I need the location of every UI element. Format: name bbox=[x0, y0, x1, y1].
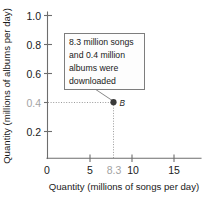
chart-figure: 1.0 0.8 0.6 0.4 0.2 0 5 8.3 10 15 Quanti… bbox=[0, 0, 210, 198]
callout-line-1: 8.3 million songs bbox=[69, 37, 134, 47]
callout-line-4: downloaded bbox=[69, 76, 116, 86]
callout-line-2: and 0.4 million bbox=[69, 50, 125, 60]
x-tick-label-8.3: 8.3 bbox=[107, 164, 122, 176]
scatter-plot: 1.0 0.8 0.6 0.4 0.2 0 5 8.3 10 15 Quanti… bbox=[0, 0, 210, 198]
x-axis-title: Quantity (millions of songs per day) bbox=[49, 181, 199, 192]
x-tick-label-0: 0 bbox=[44, 164, 50, 176]
x-tick-label-5: 5 bbox=[87, 164, 93, 176]
y-tick-label-0.4: 0.4 bbox=[26, 97, 41, 109]
y-tick-label-0.8: 0.8 bbox=[26, 39, 41, 51]
data-point-b[interactable] bbox=[110, 99, 116, 105]
callout-leader-line bbox=[95, 89, 113, 101]
y-tick-label-0.6: 0.6 bbox=[26, 68, 41, 80]
x-tick-label-10: 10 bbox=[127, 164, 139, 176]
y-tick-label-1.0: 1.0 bbox=[26, 10, 41, 22]
y-tick-label-0.2: 0.2 bbox=[26, 126, 41, 138]
x-tick-label-15: 15 bbox=[168, 164, 180, 176]
y-axis-title: Quantity (millions of albums per day) bbox=[1, 8, 12, 164]
data-point-b-label: B bbox=[120, 99, 126, 108]
callout-line-3: albums were bbox=[69, 63, 118, 73]
